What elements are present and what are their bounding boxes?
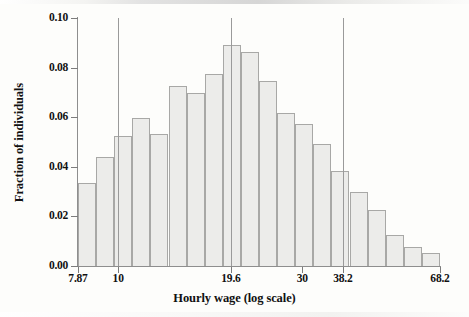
- histogram-bar: [205, 74, 223, 266]
- histogram-bar: [169, 86, 187, 266]
- y-tick-label: 0.04: [22, 160, 68, 172]
- histogram-bar: [295, 124, 313, 266]
- histogram-bar: [114, 136, 132, 266]
- reference-line-10: [118, 18, 119, 266]
- y-tick: [71, 266, 78, 267]
- x-tick-label: 38.2: [333, 272, 352, 284]
- histogram-bar: [132, 118, 150, 266]
- histogram-bar: [404, 247, 422, 266]
- x-tick-label: 10: [113, 272, 124, 284]
- y-axis-title: Fraction of individuals: [12, 48, 27, 238]
- histogram-bar: [422, 253, 440, 266]
- x-tick-label: 68.2: [430, 272, 449, 284]
- histogram-bar: [78, 183, 96, 266]
- y-tick: [71, 68, 78, 69]
- scan-artifact-bottom: [0, 312, 469, 317]
- x-axis-line: [77, 266, 441, 267]
- histogram-bar: [259, 81, 277, 267]
- histogram-bar: [313, 144, 331, 266]
- y-tick-label: 0.06: [22, 110, 68, 122]
- reference-line-19-6: [231, 18, 232, 266]
- y-tick: [71, 117, 78, 118]
- histogram-bar: [150, 134, 168, 266]
- y-tick-label: 0.08: [22, 61, 68, 73]
- plot-area: [78, 18, 440, 266]
- histogram-bar: [350, 192, 368, 266]
- x-tick-label: 19.6: [221, 272, 240, 284]
- x-tick-label: 7.87: [68, 272, 87, 284]
- x-axis-title: Hourly wage (log scale): [0, 291, 469, 306]
- y-tick-label: 0.00: [22, 259, 68, 271]
- histogram-bar: [187, 93, 205, 266]
- histogram-bar: [241, 52, 259, 266]
- histogram-bar: [368, 210, 386, 266]
- histogram-figure: 0.100.080.060.040.020.00 7.871019.63038.…: [0, 0, 469, 317]
- histogram-bar: [277, 113, 295, 266]
- histogram-bar: [96, 157, 114, 266]
- x-tick-label: 30: [297, 272, 308, 284]
- y-tick-label: 0.02: [22, 209, 68, 221]
- y-tick-label: 0.10: [22, 11, 68, 23]
- y-tick: [71, 18, 78, 19]
- y-tick: [71, 216, 78, 217]
- reference-line-38-2: [343, 18, 344, 266]
- y-tick: [71, 167, 78, 168]
- scan-artifact-top: [0, 0, 469, 4]
- histogram-bar: [386, 235, 404, 266]
- histogram-bar: [331, 171, 349, 266]
